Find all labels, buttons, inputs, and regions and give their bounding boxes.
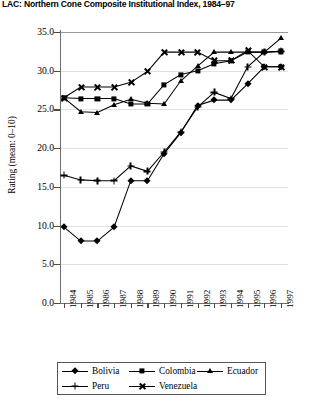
data-point-colombia bbox=[195, 68, 200, 73]
data-point-peru bbox=[194, 104, 201, 111]
chart-legend: BoliviaColombiaEcuadorPeruVenezuela bbox=[57, 362, 266, 395]
data-point-colombia bbox=[162, 82, 167, 87]
x-tick-mark bbox=[81, 303, 82, 308]
y-tick-label: 5.0 bbox=[8, 259, 54, 269]
data-point-peru bbox=[94, 177, 101, 184]
data-point-peru bbox=[61, 172, 68, 179]
x-tick-mark bbox=[97, 303, 98, 308]
data-point-peru bbox=[278, 48, 285, 55]
legend-swatch-bolivia bbox=[62, 364, 88, 379]
legend-marker-x-icon bbox=[139, 383, 146, 390]
series-line-peru bbox=[64, 51, 281, 180]
x-tick-mark bbox=[64, 303, 65, 308]
data-point-venezuela bbox=[244, 47, 251, 54]
y-tick-label: 0.0 bbox=[8, 298, 54, 308]
data-point-venezuela bbox=[227, 57, 234, 64]
y-tick-label: 35.0 bbox=[8, 27, 54, 37]
data-point-venezuela bbox=[261, 63, 268, 70]
series-line-venezuela bbox=[64, 51, 281, 98]
x-tick-mark bbox=[114, 303, 115, 308]
x-tick-mark bbox=[198, 303, 199, 308]
data-point-peru bbox=[127, 162, 134, 169]
legend-marker-square-icon bbox=[139, 368, 144, 373]
data-point-peru bbox=[261, 49, 268, 56]
data-point-colombia bbox=[111, 96, 116, 101]
legend-marker-triangle-icon bbox=[207, 368, 213, 373]
data-point-peru bbox=[144, 168, 151, 175]
data-point-venezuela bbox=[127, 79, 134, 86]
data-point-ecuador bbox=[161, 101, 167, 106]
legend-swatch-colombia bbox=[129, 364, 155, 379]
data-point-venezuela bbox=[194, 49, 201, 56]
x-tick-mark bbox=[181, 303, 182, 308]
plot-area bbox=[61, 32, 288, 303]
data-point-peru bbox=[77, 176, 84, 183]
data-point-venezuela bbox=[144, 68, 151, 75]
legend-item-peru[interactable]: Peru bbox=[62, 379, 109, 394]
x-tick-mark bbox=[147, 303, 148, 308]
data-point-colombia bbox=[78, 96, 83, 101]
data-point-peru bbox=[177, 128, 184, 135]
data-point-venezuela bbox=[278, 63, 285, 70]
data-point-peru bbox=[111, 177, 118, 184]
x-tick-mark bbox=[131, 303, 132, 308]
data-point-ecuador bbox=[278, 35, 284, 40]
chart-figure: LAC: Northern Cone Composite Institution… bbox=[0, 0, 323, 402]
legend-item-ecuador[interactable]: Ecuador bbox=[197, 364, 258, 379]
data-point-ecuador bbox=[111, 102, 117, 107]
data-point-peru bbox=[211, 89, 218, 96]
data-point-venezuela bbox=[211, 57, 218, 64]
legend-label: Bolivia bbox=[88, 367, 119, 376]
x-tick-mark bbox=[248, 303, 249, 308]
data-point-ecuador bbox=[195, 63, 201, 68]
x-tick-mark bbox=[264, 303, 265, 308]
data-point-colombia bbox=[128, 101, 133, 106]
legend-row: PeruVenezuela bbox=[58, 379, 265, 394]
x-tick-mark bbox=[214, 303, 215, 308]
x-tick-mark bbox=[164, 303, 165, 308]
data-point-colombia bbox=[95, 96, 100, 101]
x-tick-mark bbox=[231, 303, 232, 308]
legend-item-venezuela[interactable]: Venezuela bbox=[129, 379, 197, 394]
data-point-peru bbox=[227, 95, 234, 102]
data-point-peru bbox=[244, 63, 251, 70]
data-point-ecuador bbox=[228, 49, 234, 54]
legend-label: Colombia bbox=[155, 367, 196, 376]
series-lines bbox=[61, 32, 288, 303]
data-point-venezuela bbox=[111, 83, 118, 90]
legend-marker-plus-icon bbox=[72, 383, 79, 390]
data-point-venezuela bbox=[77, 83, 84, 90]
y-axis-title: Rating (mean: 0–10) bbox=[7, 55, 17, 255]
legend-label: Ecuador bbox=[223, 367, 258, 376]
legend-item-bolivia[interactable]: Bolivia bbox=[62, 364, 119, 379]
x-tick-mark bbox=[281, 303, 282, 308]
legend-swatch-venezuela bbox=[129, 379, 155, 394]
legend-swatch-ecuador bbox=[197, 364, 223, 379]
data-point-venezuela bbox=[94, 83, 101, 90]
data-point-ecuador bbox=[178, 78, 184, 83]
data-point-venezuela bbox=[161, 49, 168, 56]
legend-label: Peru bbox=[88, 382, 109, 391]
data-point-ecuador bbox=[211, 49, 217, 54]
data-point-ecuador bbox=[144, 100, 150, 105]
data-point-venezuela bbox=[177, 49, 184, 56]
data-point-colombia bbox=[178, 72, 183, 77]
data-point-ecuador bbox=[128, 96, 134, 101]
data-point-venezuela bbox=[61, 94, 68, 101]
legend-item-colombia[interactable]: Colombia bbox=[129, 364, 196, 379]
legend-label: Venezuela bbox=[155, 382, 197, 391]
data-point-ecuador bbox=[94, 110, 100, 115]
data-point-peru bbox=[161, 149, 168, 156]
legend-swatch-peru bbox=[62, 379, 88, 394]
legend-row: BoliviaColombiaEcuador bbox=[58, 364, 265, 379]
data-point-ecuador bbox=[78, 109, 84, 114]
legend-marker-diamond-icon bbox=[71, 367, 79, 375]
